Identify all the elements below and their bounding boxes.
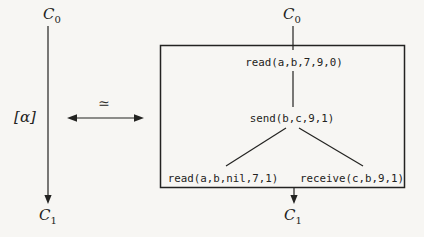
box-to-end-arrowhead [290,195,297,204]
box-end-config-label: C1 [284,206,302,226]
left-start-config-label: C0 [43,5,61,25]
middle-to-left-leaf-edge [226,128,286,166]
trace-box-transition: C0 read(a,b,7,9,0) send(b,c,9,1) read(a,… [161,5,405,226]
middle-event-label: send(b,c,9,1) [250,112,335,125]
root-event-label: read(a,b,7,9,0) [245,56,343,69]
action-label: [α] [14,108,36,126]
equivalence-right-arrowhead [134,114,144,121]
right-leaf-event-label: receive(c,b,9,1) [300,172,404,185]
box-start-config-label: C0 [283,5,301,25]
figure-canvas: C0 [α] C1 ≃ C0 read(a,b,7,9,0) send(b,c,… [0,0,424,237]
left-end-config-label: C1 [39,206,57,226]
left-leaf-event-label: read(a,b,nil,7,1) [168,172,279,185]
equivalence-diagram: C0 [α] C1 ≃ C0 read(a,b,7,9,0) send(b,c,… [0,0,424,237]
equivalence-relation: ≃ [67,95,144,122]
equivalence-symbol: ≃ [98,95,110,111]
left-transition-arrowhead [44,195,51,204]
equivalence-left-arrowhead [67,114,77,121]
left-transition: C0 [α] C1 [14,5,61,226]
middle-to-right-leaf-edge [299,128,363,166]
